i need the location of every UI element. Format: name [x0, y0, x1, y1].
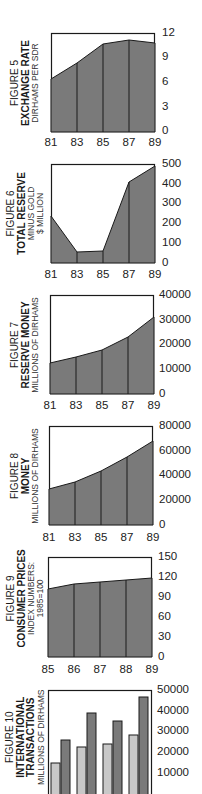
figure-10-plot: [48, 690, 152, 794]
figure-10-bar-dark: [87, 713, 96, 794]
figure-10-bar-dark: [139, 697, 148, 794]
figure-10-label: FIGURE 10: [5, 682, 16, 792]
figure-10-bar-light: [129, 735, 138, 794]
figure-10-title-2: TRANSACTIONS: [26, 682, 37, 792]
figure-10-ytick: 40000: [157, 704, 189, 716]
figure-10-title-block: FIGURE 10 INTERNATIONAL TRANSACTIONS MIL…: [0, 690, 50, 790]
figure-10-bar-dark: [113, 721, 122, 794]
figure-10-bar-light: [51, 763, 60, 794]
figure-10-ytick: 30000: [157, 724, 189, 736]
figure-10-bar-light: [77, 747, 86, 794]
figure-10-bar-dark: [61, 740, 70, 794]
figure-10-ytick: 10000: [157, 766, 189, 778]
figure-10-subtitle: MILLIONS OF DIRHAMS: [36, 682, 45, 792]
figure-10-ytick: 50000: [157, 683, 189, 695]
figure-10-ytick: 20000: [157, 745, 189, 757]
figure-10-bar-light: [103, 744, 112, 794]
